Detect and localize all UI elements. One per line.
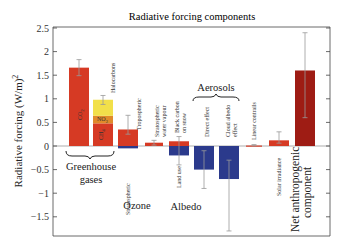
label-strat-wv-2: water vapour [161, 106, 167, 138]
y-tick-label: 0 [44, 141, 49, 152]
y-tick-label: −1.5 [31, 211, 49, 222]
bar-net-anthropogenic [295, 33, 315, 146]
group-aerosols: Aerosols [197, 82, 234, 93]
label-strat-wv-1: Stratospheric [154, 105, 160, 137]
bar-direct-effect [194, 146, 214, 188]
chart-title: Radiative forcing components [129, 11, 256, 22]
group-ozone: Ozone [123, 200, 151, 211]
bar-albedo [169, 137, 189, 165]
label-black-carbon-1: Black carbon [174, 101, 180, 133]
group-albedo: Albedo [171, 201, 202, 212]
bar-solar-irradiance [269, 132, 289, 146]
label-direct-effect: Direct effect [204, 107, 210, 137]
y-axis-label: Radiative forcing (W/m)2 [11, 75, 25, 188]
bar-linear-contrails [246, 145, 262, 147]
bar-co2 [69, 60, 89, 146]
bar-segment [118, 146, 138, 148]
radiative-forcing-chart: Radiative forcing components 2.521.510.5… [0, 0, 345, 248]
bar-segment [69, 68, 89, 146]
label-black-carbon-2: on snow [181, 112, 187, 133]
bar-cloud-albedo [219, 146, 239, 231]
y-tick-label: 2.5 [37, 23, 50, 34]
label-cloud-albedo-1: Cloud albedo [225, 105, 231, 137]
y-tick-label: 0.5 [37, 117, 50, 128]
label-tropospheric: Tropospheric [136, 98, 142, 130]
label-cloud-albedo-2: effect [232, 123, 238, 137]
y-tick-label: 1 [44, 93, 49, 104]
label-land-use: Land use [176, 166, 182, 188]
y-tick-label: 1.5 [37, 70, 50, 81]
y-tick-label: 2 [44, 46, 49, 57]
y-tick-label: −1 [38, 188, 49, 199]
bar-strat-water-vapour [145, 140, 163, 146]
group-greenhouse-gases-1: Greenhouse [66, 161, 116, 172]
ghg-brace [66, 151, 114, 159]
group-net-anthropogenic-2: component [301, 166, 314, 218]
label-halocarbons: Halocarbons [110, 62, 116, 93]
bar-ozone [118, 115, 138, 148]
aerosols-brace [193, 94, 239, 101]
label-solar-irradiance: Solar irradiance [276, 158, 282, 196]
label-linear-contrails: Linear contrails [251, 102, 257, 140]
y-tick-label: −0.5 [31, 164, 49, 175]
group-greenhouse-gases-2: gases [80, 174, 103, 185]
